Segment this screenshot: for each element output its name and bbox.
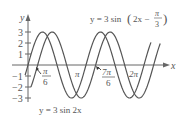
- svg-text:y = 3 sin: y = 3 sin: [90, 14, 122, 24]
- y-tick-2: 2: [18, 38, 23, 49]
- svg-text:π: π: [155, 9, 160, 18]
- svg-text:3: 3: [155, 20, 159, 29]
- seven-pi-over-6-numerator: 7π: [102, 67, 112, 77]
- x-axis-label: x: [170, 60, 176, 71]
- pi-over-6-denominator: 6: [43, 77, 48, 87]
- y-axis-label: y: [19, 12, 25, 23]
- curve2-annotation: y = 3 sin ( 2x − π 3 ): [90, 9, 167, 29]
- close-paren: ): [163, 11, 167, 26]
- pi-over-6-numerator: π: [43, 66, 48, 76]
- seven-pi-over-6-denominator: 6: [106, 78, 111, 88]
- x-axis-arrow-icon: [163, 63, 170, 68]
- y-axis-arrow-icon: [26, 14, 31, 21]
- seven-pi-over-6-arrow-icon: [96, 66, 100, 70]
- curve1-annotation: y = 3 sin 2x: [39, 105, 82, 115]
- pi-label: π: [75, 69, 80, 79]
- y-tick-neg2: −2: [12, 82, 23, 93]
- open-paren: (: [127, 11, 131, 26]
- svg-text:2x −: 2x −: [133, 14, 149, 24]
- two-pi-label: 2π: [129, 69, 139, 79]
- sine-graph: y x 3 2 1 −1 −2 −3 π 6 π 7π 6 2π y = 3 s…: [0, 0, 177, 118]
- y-tick-3: 3: [18, 27, 23, 38]
- y-tick-neg1: −1: [12, 71, 23, 82]
- y-tick-1: 1: [18, 49, 23, 60]
- y-tick-neg3: −3: [12, 93, 23, 104]
